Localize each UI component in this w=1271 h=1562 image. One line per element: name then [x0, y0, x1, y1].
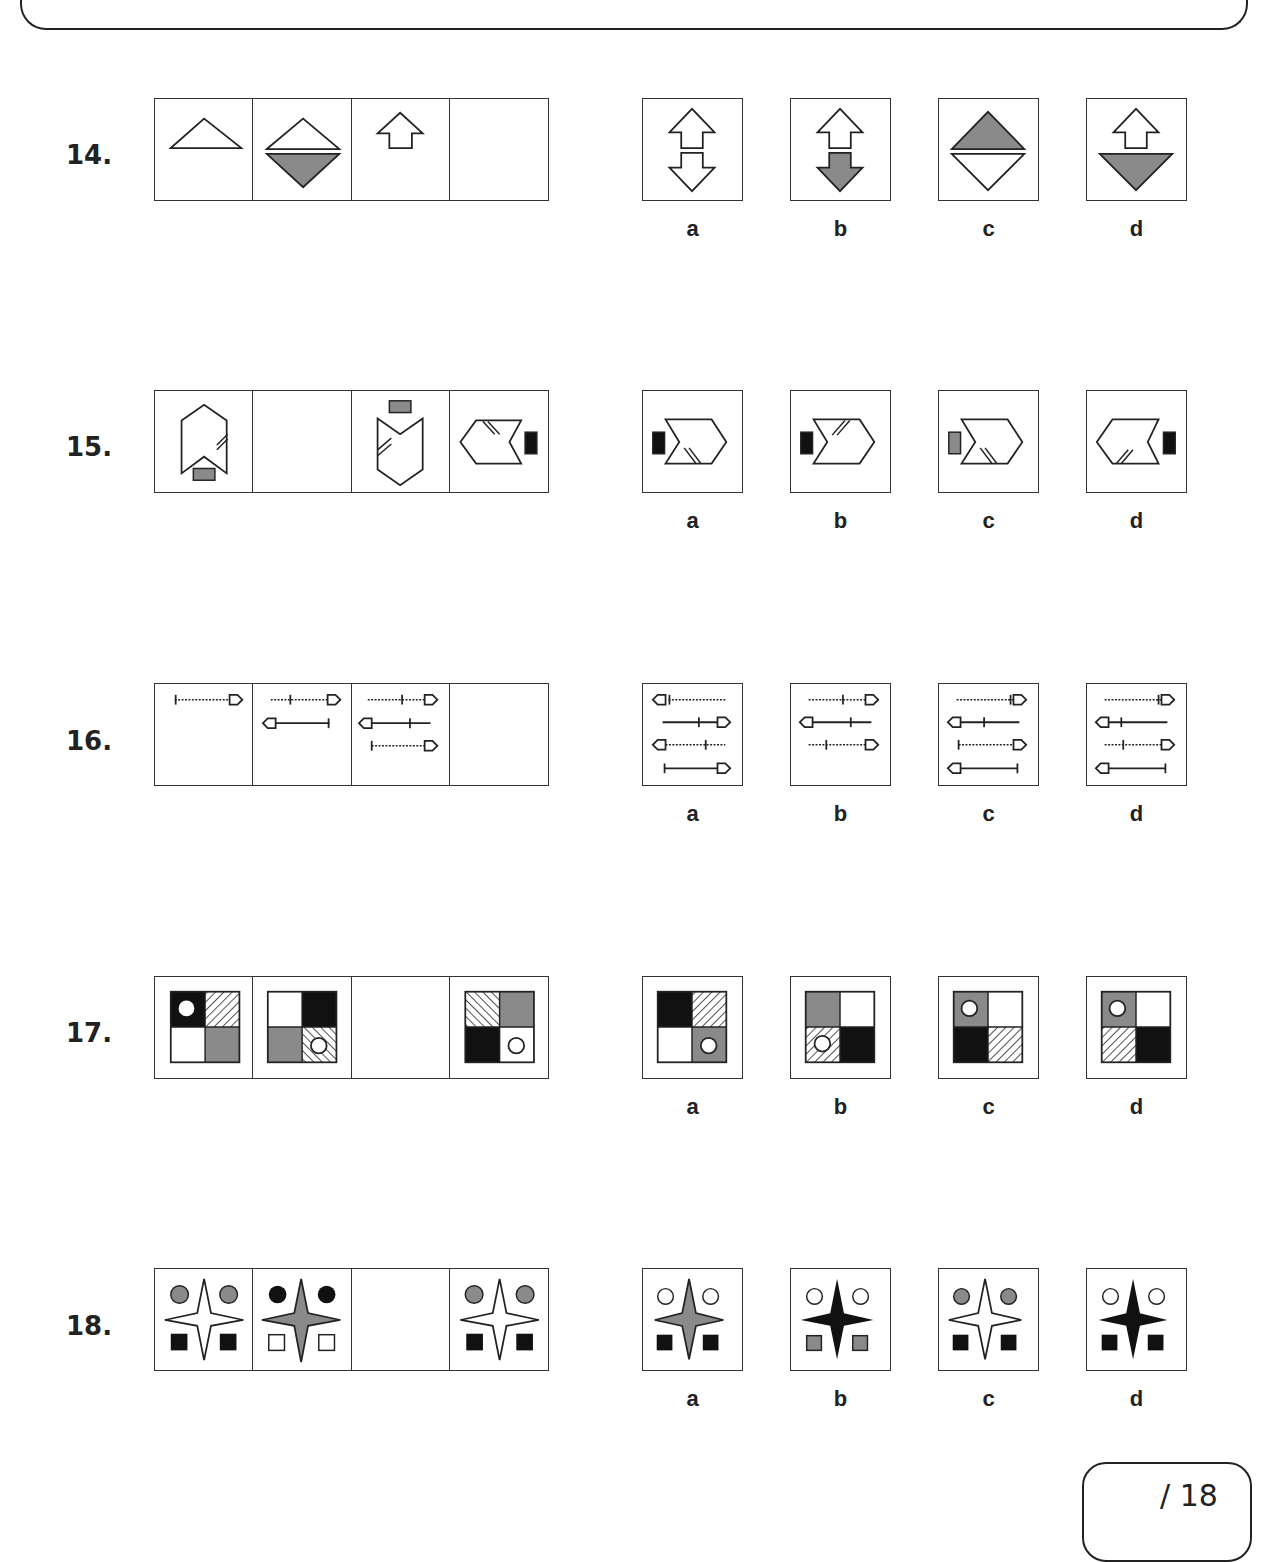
sequence-strip: [154, 976, 549, 1079]
quad-grid-icon: [939, 977, 1038, 1078]
star-icon: [155, 1269, 252, 1370]
star-icon: [450, 1269, 548, 1370]
option-label: b: [790, 1094, 891, 1120]
sequence-cell-blank[interactable]: [450, 684, 548, 785]
pentagon-icon: [939, 391, 1038, 492]
star-icon: [791, 1269, 890, 1370]
option-c[interactable]: [938, 1268, 1039, 1371]
option-b[interactable]: [790, 976, 891, 1079]
option-c[interactable]: [938, 390, 1039, 493]
option-label: c: [938, 508, 1039, 534]
sequence-cell: [352, 99, 450, 200]
header-frame: [20, 0, 1248, 30]
sequence-cell: [450, 977, 548, 1078]
star-icon: [1087, 1269, 1186, 1370]
option-d[interactable]: [1086, 683, 1187, 786]
sequence-cell: [253, 684, 351, 785]
option-label: d: [1086, 1094, 1187, 1120]
quad-grid-icon: [1087, 977, 1186, 1078]
option-a[interactable]: [642, 98, 743, 201]
option-d[interactable]: [1086, 1268, 1187, 1371]
option-c[interactable]: [938, 683, 1039, 786]
sequence-cell: [352, 391, 450, 492]
arrow-lines-icon: [791, 684, 890, 785]
arrow-triangle-icon: [1087, 99, 1186, 200]
option-label: c: [938, 1386, 1039, 1412]
dotted-arrow-icon: [155, 684, 252, 785]
sequence-cell: [155, 99, 253, 200]
option-c[interactable]: [938, 976, 1039, 1079]
option-b[interactable]: [790, 683, 891, 786]
option-d[interactable]: [1086, 976, 1187, 1079]
option-label: d: [1086, 1386, 1187, 1412]
option-c[interactable]: [938, 98, 1039, 201]
question-number: 15.: [66, 432, 112, 462]
quad-grid-icon: [791, 977, 890, 1078]
option-label: a: [642, 1386, 743, 1412]
option-label: b: [790, 508, 891, 534]
quad-grid-icon: [155, 977, 252, 1078]
arrow-up-icon: [352, 99, 449, 200]
option-label: d: [1086, 801, 1187, 827]
star-icon: [253, 1269, 350, 1370]
sequence-cell: [253, 977, 351, 1078]
sequence-cell: [253, 1269, 351, 1370]
option-label: b: [790, 801, 891, 827]
option-label: b: [790, 216, 891, 242]
question-number: 17.: [66, 1018, 112, 1048]
double-arrow-icon: [643, 99, 742, 200]
sequence-cell: [155, 684, 253, 785]
option-b[interactable]: [790, 98, 891, 201]
option-label: a: [642, 508, 743, 534]
option-label: a: [642, 216, 743, 242]
sequence-cell: [450, 391, 548, 492]
option-label: d: [1086, 216, 1187, 242]
sequence-cell: [450, 1269, 548, 1370]
option-label: c: [938, 801, 1039, 827]
question-number: 14.: [66, 140, 112, 170]
pentagon-icon: [1087, 391, 1186, 492]
triangle-up-icon: [155, 99, 252, 200]
sequence-cell-blank[interactable]: [450, 99, 548, 200]
sequence-cell: [155, 977, 253, 1078]
option-label: a: [642, 801, 743, 827]
sequence-cell-blank[interactable]: [352, 977, 450, 1078]
option-a[interactable]: [642, 976, 743, 1079]
option-b[interactable]: [790, 1268, 891, 1371]
sequence-strip: [154, 683, 549, 786]
diamond-split-icon: [253, 99, 350, 200]
star-icon: [939, 1269, 1038, 1370]
diamond-split-icon: [939, 99, 1038, 200]
question-number: 18.: [66, 1311, 112, 1341]
double-arrow-icon: [791, 99, 890, 200]
sequence-cell: [352, 684, 450, 785]
option-a[interactable]: [642, 1268, 743, 1371]
score-label: / 18: [1160, 1478, 1218, 1513]
arrow-lines-icon: [352, 684, 449, 785]
question-number: 16.: [66, 726, 112, 756]
sequence-cell-blank[interactable]: [253, 391, 351, 492]
pentagon-icon: [155, 391, 252, 492]
option-d[interactable]: [1086, 390, 1187, 493]
quad-grid-icon: [450, 977, 548, 1078]
pentagon-icon: [450, 391, 548, 492]
pentagon-icon: [643, 391, 742, 492]
option-a[interactable]: [642, 683, 743, 786]
pentagon-icon: [791, 391, 890, 492]
sequence-strip: [154, 98, 549, 201]
option-d[interactable]: [1086, 98, 1187, 201]
option-b[interactable]: [790, 390, 891, 493]
option-a[interactable]: [642, 390, 743, 493]
option-label: a: [642, 1094, 743, 1120]
arrow-lines-icon: [1087, 684, 1186, 785]
arrow-lines-icon: [643, 684, 742, 785]
sequence-cell: [253, 99, 351, 200]
pentagon-icon: [352, 391, 449, 492]
option-label: c: [938, 216, 1039, 242]
sequence-cell-blank[interactable]: [352, 1269, 450, 1370]
sequence-cell: [155, 1269, 253, 1370]
option-label: c: [938, 1094, 1039, 1120]
star-icon: [643, 1269, 742, 1370]
quad-grid-icon: [643, 977, 742, 1078]
quad-grid-icon: [253, 977, 350, 1078]
